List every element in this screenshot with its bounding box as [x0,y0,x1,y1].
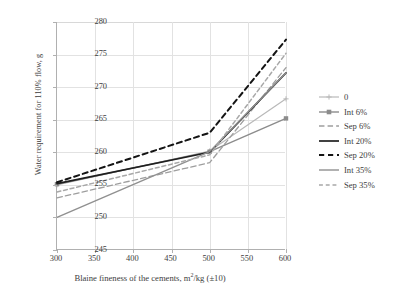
x-tick-mark [133,249,134,253]
x-tick-mark [172,249,173,253]
y-tick-label: 270 [67,82,107,91]
y-axis-title: Water requirement for 110% flow, g [34,15,43,215]
x-gridline [286,22,287,249]
legend-key-int-6 [318,107,340,117]
data-point-marker [284,116,288,120]
y-tick-label: 255 [67,179,107,188]
y-tick-mark [53,217,57,218]
legend-label-int-6: Int 6% [344,107,367,117]
y-tick-mark [53,22,57,23]
y-tick-mark [53,120,57,121]
legend-key-sep-6 [318,121,340,131]
legend-item-sep-6[interactable]: Sep 6% [318,121,375,131]
x-tick-label: 550 [227,254,267,263]
x-axis-title-tail: /kg (±10) [193,273,225,283]
y-tick-mark [53,55,57,56]
y-tick-label: 245 [67,245,107,254]
legend-key-sep-35 [318,180,340,190]
legend-key-0 [318,92,340,102]
x-tick-label: 350 [74,254,114,263]
x-tick-mark [57,249,58,253]
legend-label-sep-35: Sep 35% [344,180,375,190]
y-tick-label: 250 [67,212,107,221]
y-tick-label: 260 [67,147,107,156]
x-tick-label: 300 [36,254,76,263]
legend-label-sep-6: Sep 6% [344,121,371,131]
legend-key-sep-20 [318,150,340,160]
y-tick-label: 265 [67,114,107,123]
legend-label-int-35: Int 35% [344,165,371,175]
y-tick-mark [53,152,57,153]
x-tick-label: 500 [189,254,229,263]
legend-label-sep-20: Sep 20% [344,150,375,160]
x-tick-mark [286,249,287,253]
legend-key-int-35 [318,165,340,175]
legend-label-0: 0 [344,92,348,102]
legend: 0Int 6%Sep 6%Int 20%Sep 20%Int 35%Sep 35… [318,92,375,190]
chart-figure: Water requirement for 110% flow, g Blain… [0,0,396,300]
y-tick-mark [53,87,57,88]
legend-item-sep-20[interactable]: Sep 20% [318,150,375,160]
y-tick-label: 280 [67,17,107,26]
x-tick-mark [210,249,211,253]
y-tick-mark [53,185,57,186]
x-axis-title: Blaine fineness of the cements, m2/kg (±… [0,272,300,283]
x-tick-label: 600 [265,254,305,263]
x-tick-label: 450 [151,254,191,263]
x-tick-mark [248,249,249,253]
x-axis-title-main: Blaine fineness of the cements, m [74,273,190,283]
legend-item-sep-35[interactable]: Sep 35% [318,180,375,190]
legend-key-int-20 [318,136,340,146]
legend-label-int-20: Int 20% [344,136,371,146]
y-tick-label: 275 [67,49,107,58]
legend-item-int-20[interactable]: Int 20% [318,136,375,146]
legend-item-int-35[interactable]: Int 35% [318,165,375,175]
legend-item-int-6[interactable]: Int 6% [318,107,375,117]
x-tick-label: 400 [112,254,152,263]
legend-item-0[interactable]: 0 [318,92,375,102]
